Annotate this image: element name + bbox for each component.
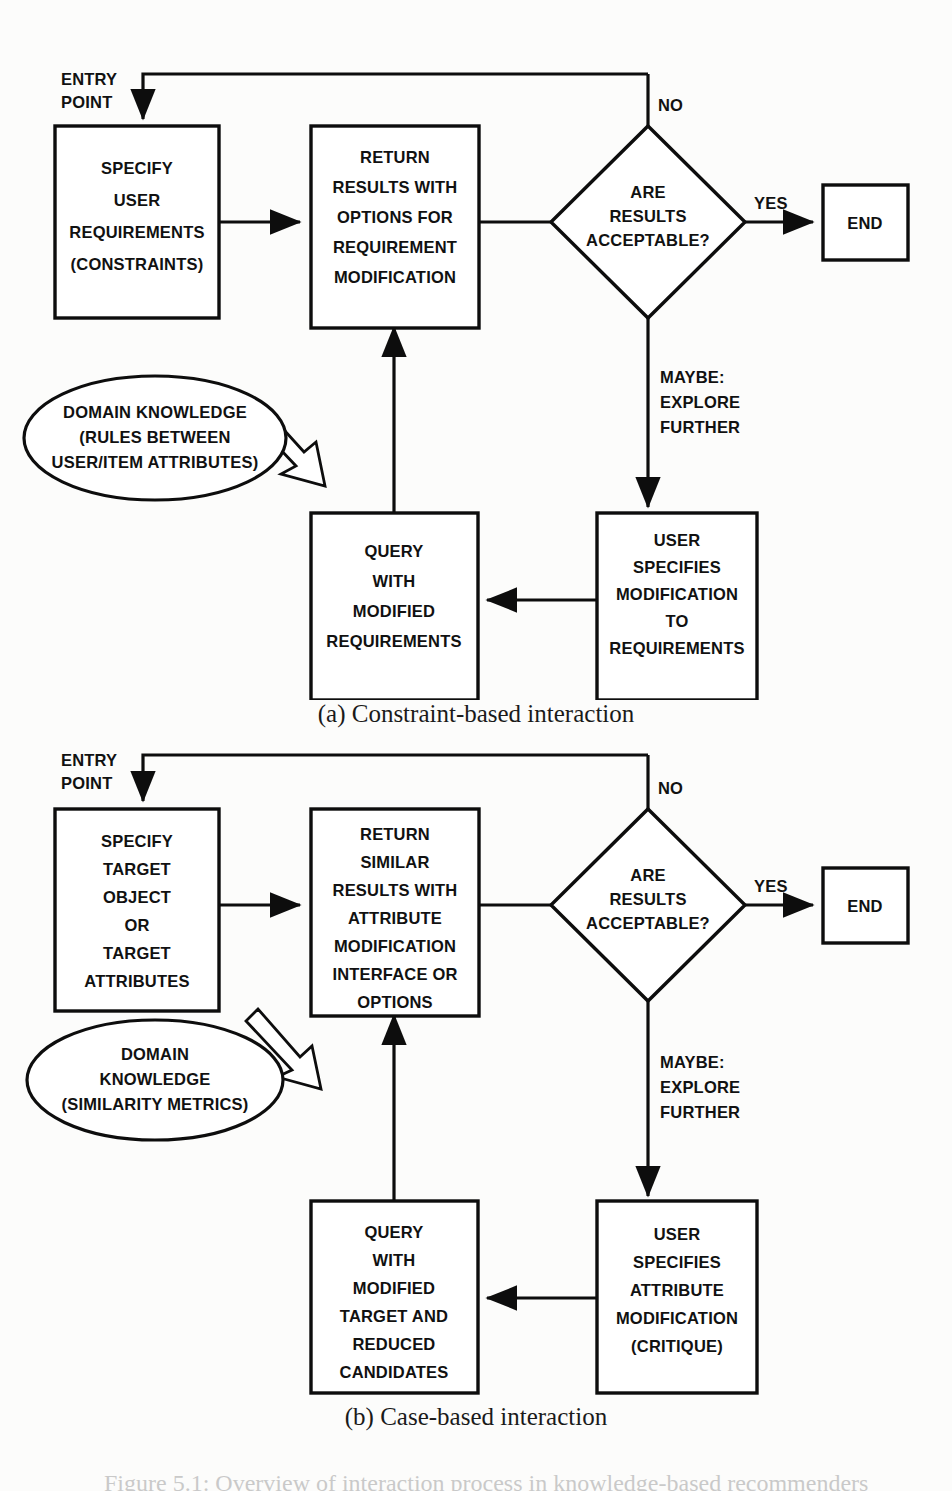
node-label-line: INTERFACE OR [332,965,457,983]
node-label-line: REQUIREMENTS [609,639,744,657]
node-label-line: OPTIONS [357,993,433,1011]
node-label-line: MODIFICATION [334,268,456,286]
label-maybe: EXPLORE [660,1078,740,1096]
node-label-line: DOMAIN [121,1045,189,1063]
label-no: NO [658,779,683,797]
node-label-line: TARGET [103,860,171,878]
node-label-line: MODIFIED [353,1279,435,1297]
label-yes: YES [754,877,788,895]
node-return-similar-results[interactable]: RETURN SIMILAR RESULTS WITH ATTRIBUTE MO… [311,809,479,1016]
node-label-line: ATTRIBUTE [348,909,442,927]
node-user-specifies-attribute-modification[interactable]: USER SPECIFIES ATTRIBUTE MODIFICATION (C… [597,1201,757,1393]
node-specify-user-requirements[interactable]: SPECIFY USER REQUIREMENTS (CONSTRAINTS) [55,126,219,318]
node-label-line: (CRITIQUE) [631,1337,723,1355]
edge-no-loop [143,74,648,119]
node-label-line: RETURN [360,148,430,166]
node-return-results[interactable]: RETURN RESULTS WITH OPTIONS FOR REQUIREM… [311,126,479,328]
node-label-line: (RULES BETWEEN [79,428,230,446]
node-label-line: TO [665,612,688,630]
node-label-line: ACCEPTABLE? [586,231,710,249]
node-domain-knowledge[interactable]: DOMAIN KNOWLEDGE (SIMILARITY METRICS) [27,1020,283,1140]
node-label-line: CANDIDATES [340,1363,449,1381]
node-label-line: SPECIFY [101,832,173,850]
node-label-line: END [847,897,882,915]
label-yes: YES [754,194,788,212]
edge-no-loop [143,755,648,801]
node-label-line: TARGET AND [340,1307,448,1325]
node-label-line: MODIFIED [353,602,435,620]
node-label-line: ARE [630,183,665,201]
label-maybe: FURTHER [660,418,740,436]
node-label-line: END [847,214,882,232]
label-maybe: EXPLORE [660,393,740,411]
node-label-line: WITH [373,1251,416,1269]
label-entry-point: POINT [61,774,112,792]
node-label-line: OPTIONS FOR [337,208,453,226]
node-label-line: RESULTS WITH [333,178,458,196]
node-label-line: OBJECT [103,888,171,906]
node-query-modified-target[interactable]: QUERY WITH MODIFIED TARGET AND REDUCED C… [311,1201,478,1393]
node-query-modified-requirements[interactable]: QUERY WITH MODIFIED REQUIREMENTS [311,513,478,700]
label-no: NO [658,96,683,114]
node-label-line: ACCEPTABLE? [586,914,710,932]
node-label-line: REQUIREMENTS [326,632,461,650]
node-end[interactable]: END [823,185,908,260]
node-label-line: RESULTS [609,890,686,908]
node-specify-target-object[interactable]: SPECIFY TARGET OBJECT OR TARGET ATTRIBUT… [55,809,219,1011]
label-entry-point: ENTRY [61,751,117,769]
label-maybe: MAYBE: [660,1053,725,1071]
node-label-line: SPECIFIES [633,1253,721,1271]
node-label-line: SPECIFY [101,159,173,177]
figure-root: SPECIFY USER REQUIREMENTS (CONSTRAINTS) … [0,0,952,1491]
node-label-line: KNOWLEDGE [100,1070,211,1088]
subcaption-a: (a) Constraint-based interaction [0,700,952,728]
node-label-line: SIMILAR [360,853,429,871]
node-label-line: MODIFICATION [334,937,456,955]
node-label-line: DOMAIN KNOWLEDGE [63,403,247,421]
node-label-line: QUERY [364,542,423,560]
label-maybe: FURTHER [660,1103,740,1121]
node-label-line: TARGET [103,944,171,962]
node-label-line: RETURN [360,825,430,843]
node-label-line: REDUCED [353,1335,436,1353]
label-entry-point: POINT [61,93,112,111]
node-user-specifies-modification[interactable]: USER SPECIFIES MODIFICATION TO REQUIREME… [597,513,757,700]
node-label-line: MODIFICATION [616,585,738,603]
node-label-line: USER [654,531,701,549]
figure-caption: Figure 5.1: Overview of interaction proc… [104,1470,894,1491]
node-label-line: RESULTS [609,207,686,225]
label-maybe: MAYBE: [660,368,725,386]
node-decision-are-results-acceptable[interactable]: ARE RESULTS ACCEPTABLE? [551,809,745,1001]
node-label-line: USER [654,1225,701,1243]
node-label-line: SPECIFIES [633,558,721,576]
node-label-line: REQUIREMENT [333,238,457,256]
node-label-line: REQUIREMENTS [69,223,204,241]
node-domain-knowledge[interactable]: DOMAIN KNOWLEDGE (RULES BETWEEN USER/ITE… [24,376,286,500]
node-decision-are-results-acceptable[interactable]: ARE RESULTS ACCEPTABLE? [551,126,745,318]
node-label-line: ATTRIBUTE [630,1281,724,1299]
flowchart-case-based: SPECIFY TARGET OBJECT OR TARGET ATTRIBUT… [0,743,952,1403]
flowchart-constraint-based: SPECIFY USER REQUIREMENTS (CONSTRAINTS) … [0,0,952,700]
subcaption-b: (b) Case-based interaction [0,1403,952,1431]
node-label-line: (SIMILARITY METRICS) [61,1095,248,1113]
node-label-line: QUERY [364,1223,423,1241]
node-label-line: (CONSTRAINTS) [71,255,204,273]
node-end[interactable]: END [823,868,908,943]
node-label-line: ARE [630,866,665,884]
node-label-line: ATTRIBUTES [84,972,189,990]
node-label-line: MODIFICATION [616,1309,738,1327]
node-label-line: USER/ITEM ATTRIBUTES) [52,453,259,471]
node-label-line: OR [124,916,149,934]
node-label-line: USER [114,191,161,209]
node-label-line: RESULTS WITH [333,881,458,899]
label-entry-point: ENTRY [61,70,117,88]
node-label-line: WITH [373,572,416,590]
